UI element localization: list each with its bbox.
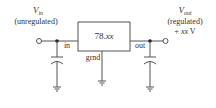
vout-value: + xx V	[174, 27, 195, 36]
vout-label: Vout	[178, 5, 192, 16]
input-ground-icon	[53, 87, 61, 91]
pin-in-label: in	[64, 41, 70, 50]
input-terminal-icon	[37, 39, 42, 44]
regulator-ground-icon	[98, 81, 106, 85]
output-capacitor-icon	[144, 41, 156, 87]
vin-label: Vin	[33, 5, 43, 16]
output-terminal-icon	[163, 39, 168, 44]
pin-gnd-label: grnd	[86, 53, 101, 62]
pin-out-label: out	[135, 41, 146, 50]
regulator-schematic: Vin (unregulated) Vout (regulated) + xx …	[0, 0, 216, 108]
regulator-label: 78.xx	[94, 31, 113, 41]
vin-note: (unregulated)	[14, 17, 57, 26]
vout-note: (regulated)	[167, 17, 202, 26]
input-capacitor-icon	[51, 41, 63, 87]
output-ground-icon	[146, 87, 154, 91]
